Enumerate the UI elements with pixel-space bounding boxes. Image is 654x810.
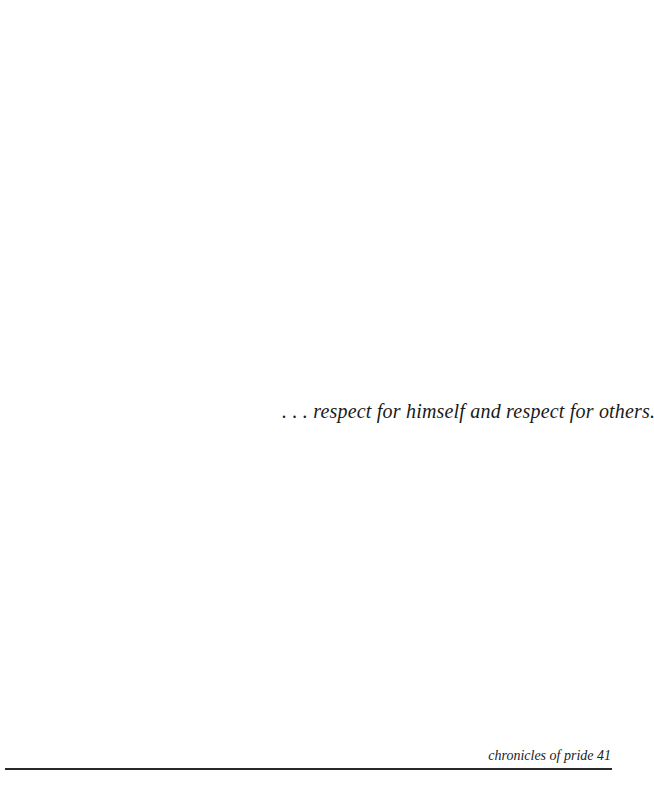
footer-rule-divider [5,768,612,770]
running-footer: chronicles of pride 41 [488,748,611,764]
quote-text: . . . respect for himself and respect fo… [282,400,654,423]
